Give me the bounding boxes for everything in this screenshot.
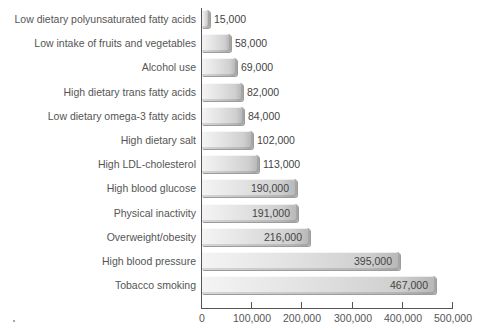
category-label: Tobacco smoking (115, 276, 196, 294)
category-label: Low dietary polyunsaturated fatty acids (14, 10, 196, 28)
x-tick-mark (402, 302, 403, 308)
bar (202, 155, 259, 173)
x-tick-label: 500,000 (434, 312, 472, 324)
value-label: 84,000 (248, 107, 280, 125)
category-label: High dietary trans fatty acids (64, 83, 196, 101)
x-tick-mark (301, 302, 302, 308)
category-label: Alcohol use (142, 58, 196, 76)
value-label: 216,000 (238, 228, 302, 246)
bar (202, 131, 253, 149)
x-axis-line (201, 308, 453, 309)
category-label: High blood glucose (107, 179, 196, 197)
x-tick-mark (452, 302, 453, 308)
value-label: 82,000 (247, 83, 279, 101)
x-tick-label: 400,000 (384, 312, 422, 324)
category-label: Low intake of fruits and vegetables (34, 34, 196, 52)
x-tick-mark (251, 302, 252, 308)
x-tick-label: 200,000 (283, 312, 321, 324)
bar (202, 83, 243, 101)
value-label: 102,000 (257, 131, 295, 149)
value-label: 467,000 (364, 276, 428, 294)
value-label: 191,000 (226, 204, 290, 222)
value-label: 69,000 (241, 58, 273, 76)
category-label: High dietary salt (121, 131, 196, 149)
x-tick-label: 300,000 (334, 312, 372, 324)
value-label: 15,000 (214, 10, 246, 28)
bar (202, 107, 244, 125)
bar (202, 58, 237, 76)
value-label: 58,000 (235, 34, 267, 52)
x-tick-label: 0 (199, 312, 205, 324)
category-label: Physical inactivity (114, 204, 196, 222)
x-tick-label: 100,000 (233, 312, 271, 324)
bar (202, 34, 231, 52)
value-label: 190,000 (225, 179, 289, 197)
value-label: 113,000 (263, 155, 300, 173)
category-label: Low dietary omega-3 fatty acids (48, 107, 196, 125)
x-tick-mark (352, 302, 353, 308)
value-label: 395,000 (328, 252, 392, 270)
category-label: High blood pressure (102, 252, 196, 270)
category-label: Overweight/obesity (107, 228, 196, 246)
category-label: High LDL-cholesterol (98, 155, 196, 173)
bar (202, 10, 210, 28)
y-axis-line (201, 8, 202, 309)
stray-dot (13, 320, 15, 322)
horizontal-bar-chart: Low dietary polyunsaturated fatty acids1… (0, 0, 480, 333)
